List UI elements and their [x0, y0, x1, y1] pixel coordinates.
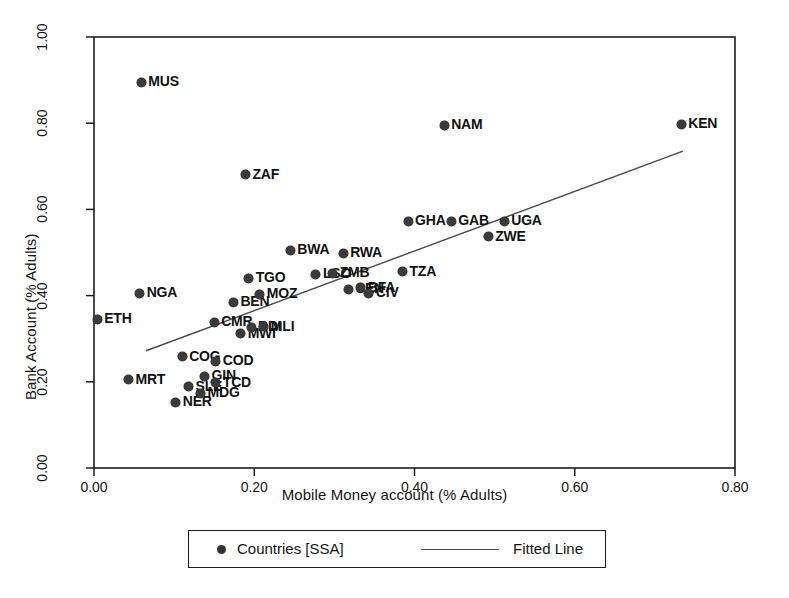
data-point-label-nga: NGA — [147, 284, 178, 300]
y-tick-label: 0.40 — [34, 274, 50, 318]
data-point-label-rwa: RWA — [350, 244, 382, 260]
data-point-label-zwe: ZWE — [495, 228, 526, 244]
data-point-label-tza: TZA — [409, 263, 436, 279]
data-point-nam[interactable] — [440, 121, 449, 130]
data-point-gab[interactable] — [447, 217, 456, 226]
data-point-gha[interactable] — [404, 217, 413, 226]
data-point-label-mli: MLI — [271, 318, 295, 334]
data-point-ben[interactable] — [229, 298, 238, 307]
data-point-ner[interactable] — [171, 398, 180, 407]
x-tick-label: 0.40 — [390, 479, 440, 495]
data-point-gin[interactable] — [200, 372, 209, 381]
y-tick-label: 1.00 — [34, 15, 50, 59]
data-point-mdg[interactable] — [196, 389, 205, 398]
data-point-label-zmb: ZMB — [340, 264, 370, 280]
data-point-bdi[interactable] — [247, 323, 256, 332]
y-tick-label: 0.00 — [34, 446, 50, 490]
x-axis-ticks — [94, 468, 735, 476]
legend-marker-countries-icon — [217, 545, 226, 554]
data-point-label-tgo: TGO — [256, 269, 286, 285]
data-point-label-civ: CIV — [376, 284, 399, 300]
data-point-cmr[interactable] — [210, 318, 219, 327]
data-point-label-cod: COD — [223, 352, 254, 368]
data-point-mus[interactable] — [137, 78, 146, 87]
data-point-label-zaf: ZAF — [252, 166, 279, 182]
data-point-cod[interactable] — [211, 357, 220, 366]
data-point-ken[interactable] — [677, 120, 686, 129]
data-point-label-uga: UGA — [511, 212, 542, 228]
data-point-label-tcd: TCD — [223, 374, 251, 390]
data-point-label-bwa: BWA — [297, 241, 329, 257]
y-tick-label: 0.60 — [34, 187, 50, 231]
data-point-label-gab: GAB — [458, 212, 489, 228]
x-tick-label: 0.20 — [229, 479, 279, 495]
data-point-bwa[interactable] — [286, 246, 295, 255]
data-point-lso[interactable] — [311, 270, 320, 279]
data-point-zmb[interactable] — [328, 269, 337, 278]
data-point-tgo[interactable] — [244, 274, 253, 283]
x-tick-label: 0.60 — [550, 479, 600, 495]
x-tick-label: 0.00 — [69, 479, 119, 495]
data-point-eth[interactable] — [93, 315, 102, 324]
data-point-label-mrt: MRT — [135, 371, 165, 387]
data-point-label-mus: MUS — [148, 73, 179, 89]
data-point-label-gha: GHA — [415, 212, 446, 228]
chart-legend: Countries [SSA] Fitted Line — [188, 530, 606, 568]
legend-label-countries: Countries [SSA] — [237, 540, 344, 557]
legend-label-fitted-line: Fitted Line — [513, 540, 583, 557]
data-point-uga[interactable] — [500, 217, 509, 226]
legend-marker-fitted-line-icon — [421, 549, 499, 550]
data-point-label-nam: NAM — [451, 116, 482, 132]
scatter-chart-figure: Bank Account (% Adults) Mobile Money acc… — [0, 0, 789, 598]
y-tick-label: 0.20 — [34, 360, 50, 404]
data-point-label-ken: KEN — [688, 115, 717, 131]
data-point-label-moz: MOZ — [267, 285, 298, 301]
y-axis-ticks — [86, 37, 94, 468]
data-point-label-eth: ETH — [104, 310, 131, 326]
data-point-zwe[interactable] — [484, 232, 493, 241]
x-tick-label: 0.80 — [710, 479, 760, 495]
data-point-cog[interactable] — [178, 352, 187, 361]
data-point-sen[interactable] — [344, 285, 353, 294]
data-point-rwa[interactable] — [339, 249, 348, 258]
y-tick-label: 0.80 — [34, 101, 50, 145]
